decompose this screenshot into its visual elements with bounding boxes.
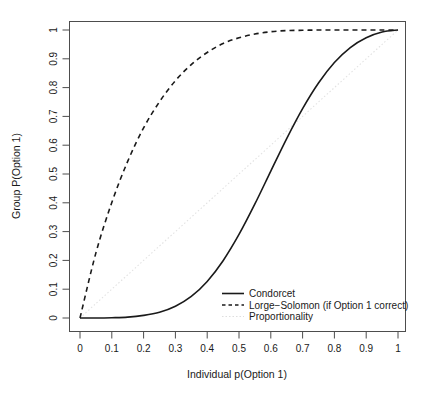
y-tick-label: 0.2 bbox=[48, 253, 59, 267]
y-tick-label: 0.3 bbox=[48, 224, 59, 238]
x-tick-label: 0.5 bbox=[232, 343, 246, 354]
y-tick-label: 0.5 bbox=[48, 167, 59, 181]
y-tick-label: 0.6 bbox=[48, 138, 59, 152]
y-tick-label: 0.7 bbox=[48, 109, 59, 123]
chart-figure: 00.10.20.30.40.50.60.70.80.91 00.10.20.3… bbox=[0, 0, 429, 397]
y-axis-title: Group P(Option 1) bbox=[10, 133, 22, 219]
y-tick-label: 0.4 bbox=[48, 195, 59, 209]
x-tick-label: 1 bbox=[395, 343, 401, 354]
legend-label: Condorcet bbox=[249, 288, 295, 299]
x-tick-label: 0 bbox=[77, 343, 83, 354]
y-axis-ticks bbox=[63, 30, 70, 318]
legend-label: Lorge−Solomon (if Option 1 correct) bbox=[249, 300, 408, 311]
x-tick-label: 0.6 bbox=[264, 343, 278, 354]
y-axis-tick-labels: 00.10.20.30.40.50.60.70.80.91 bbox=[48, 27, 59, 321]
x-tick-label: 0.7 bbox=[296, 343, 310, 354]
x-tick-label: 0.3 bbox=[168, 343, 182, 354]
x-tick-label: 0.9 bbox=[359, 343, 373, 354]
data-series-group bbox=[80, 30, 398, 318]
series-line-proportionality bbox=[80, 30, 398, 318]
x-axis-title: Individual p(Option 1) bbox=[187, 368, 287, 380]
x-tick-label: 0.4 bbox=[200, 343, 214, 354]
x-tick-label: 0.8 bbox=[327, 343, 341, 354]
y-tick-label: 0.1 bbox=[48, 282, 59, 296]
x-tick-label: 0.1 bbox=[105, 343, 119, 354]
y-tick-label: 1 bbox=[48, 27, 59, 33]
x-tick-label: 0.2 bbox=[137, 343, 151, 354]
legend-label: Proportionality bbox=[249, 311, 313, 322]
y-tick-label: 0 bbox=[48, 315, 59, 321]
x-axis-ticks bbox=[80, 332, 398, 339]
x-axis-tick-labels: 00.10.20.30.40.50.60.70.80.91 bbox=[77, 343, 401, 354]
plot-frame bbox=[70, 22, 406, 332]
y-tick-label: 0.9 bbox=[48, 51, 59, 65]
y-tick-label: 0.8 bbox=[48, 80, 59, 94]
chart-legend: CondorcetLorge−Solomon (if Option 1 corr… bbox=[222, 288, 408, 322]
chart-canvas: 00.10.20.30.40.50.60.70.80.91 00.10.20.3… bbox=[0, 0, 429, 397]
